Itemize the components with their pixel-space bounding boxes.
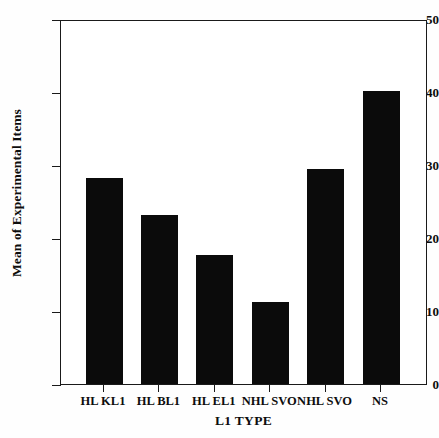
bar xyxy=(196,255,233,384)
x-axis-tick xyxy=(214,385,215,392)
x-axis-tick xyxy=(158,385,159,392)
bar-chart-figure: Mean of Experimental Items 01020304050 H… xyxy=(0,0,439,438)
x-axis-tick xyxy=(380,385,381,392)
bar xyxy=(307,169,344,384)
x-axis-tick-label: HL BL1 xyxy=(137,394,180,409)
y-axis-tick xyxy=(52,385,61,386)
x-axis-tick-label: NS xyxy=(372,394,388,409)
x-axis-title: L1 TYPE xyxy=(60,413,427,429)
x-axis-tick xyxy=(269,385,270,392)
plot-area xyxy=(60,20,427,385)
bar xyxy=(363,91,400,384)
bar xyxy=(252,302,289,384)
bar xyxy=(141,215,178,384)
x-axis-tick-label: HL EL1 xyxy=(192,394,235,409)
y-axis-title: Mean of Experimental Items xyxy=(6,0,28,385)
y-axis-title-text: Mean of Experimental Items xyxy=(9,109,25,277)
x-axis-tick-label: HL KL1 xyxy=(81,394,126,409)
x-axis-tick xyxy=(325,385,326,392)
bars-group xyxy=(61,21,426,384)
x-axis-tick-label: NHL SVO xyxy=(242,394,297,409)
bar xyxy=(86,178,123,384)
x-axis-tick xyxy=(103,385,104,392)
x-axis-tick-label: NHL SVO xyxy=(297,394,352,409)
